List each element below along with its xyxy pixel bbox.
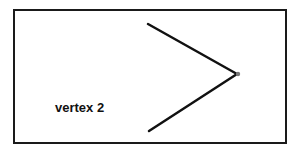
angle-diagram: [0, 0, 297, 151]
lower-ray: [149, 74, 237, 131]
vertex-label: vertex 2: [55, 100, 104, 115]
vertex-point: [236, 72, 240, 76]
upper-ray: [148, 24, 237, 74]
